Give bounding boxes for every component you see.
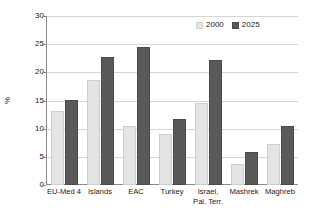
legend-swatch-icon [232, 22, 239, 29]
y-axis-tick-mark [42, 185, 46, 186]
bar-2025 [173, 119, 186, 185]
bar-group [154, 16, 190, 185]
bar-2000 [87, 80, 100, 185]
bar-2025 [137, 47, 150, 185]
x-axis-tick-label: Turkey [154, 187, 190, 197]
chart-legend: 20002025 [196, 21, 260, 29]
bar-2025 [209, 60, 222, 185]
y-axis-tick-label: 5 [22, 153, 44, 161]
bar-2000 [231, 164, 244, 185]
y-axis-tick-label: 20 [22, 68, 44, 76]
bar-2000 [159, 134, 172, 185]
bar-2000 [51, 111, 64, 185]
bar-2025 [65, 100, 78, 185]
bar-chart: % 051015202530 EU-Med 4IslandsEACTurkeyI… [0, 0, 310, 217]
legend-item-2000[interactable]: 2000 [196, 21, 224, 29]
bar-2000 [195, 103, 208, 185]
legend-label: 2000 [206, 21, 224, 29]
bar-group [190, 16, 226, 185]
bar-group [118, 16, 154, 185]
bar-group [226, 16, 262, 185]
legend-swatch-icon [196, 22, 203, 29]
y-axis-tick-label: 10 [22, 125, 44, 133]
x-axis-tick-label: EAC [118, 187, 154, 197]
x-axis-tick-label: EU-Med 4 [46, 187, 82, 197]
bar-2000 [267, 144, 280, 185]
bar-2025 [101, 57, 114, 185]
y-axis-tick-label: 15 [22, 97, 44, 105]
y-axis-tick-label: 30 [22, 12, 44, 20]
x-axis-labels: EU-Med 4IslandsEACTurkeyIsrael, Pal. Ter… [46, 187, 298, 217]
bar-2025 [281, 126, 294, 185]
bars-layer [46, 16, 298, 185]
legend-item-2025[interactable]: 2025 [232, 21, 260, 29]
x-axis-tick-label: Israel, Pal. Terr. [190, 187, 226, 206]
x-axis-tick-label: Mashrek [226, 187, 262, 197]
bar-group [46, 16, 82, 185]
y-axis-tick-label: 0 [22, 181, 44, 189]
bar-2000 [123, 126, 136, 185]
x-axis-tick-label: Islands [82, 187, 118, 197]
x-axis-tick-label: Maghreb [262, 187, 298, 197]
y-axis-tick-label: 25 [22, 40, 44, 48]
bar-group [82, 16, 118, 185]
bar-2025 [245, 152, 258, 185]
bar-group [262, 16, 298, 185]
legend-label: 2025 [242, 21, 260, 29]
y-axis-title: % [3, 94, 12, 108]
